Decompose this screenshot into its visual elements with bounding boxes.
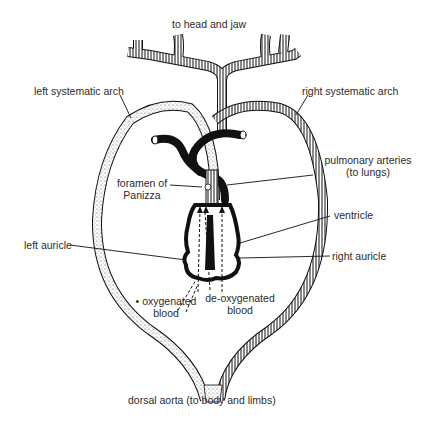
carotid-branches <box>128 35 298 135</box>
foramen-of-panizza <box>205 184 211 190</box>
label-dorsal-aorta: dorsal aorta (to body and limbs) <box>128 394 276 406</box>
label-ventricle: ventricle <box>334 209 373 221</box>
label-deoxy-line1: de-oxygenated <box>200 292 280 304</box>
label-foramen-line1: foramen of <box>112 177 172 189</box>
label-pulmonary-line2: (to lungs) <box>312 166 424 178</box>
label-to-head-and-jaw: to head and jaw <box>172 18 246 30</box>
label-oxygenated-blood: • oxygenated blood <box>128 295 204 319</box>
label-deoxy-line2: blood <box>200 304 280 316</box>
frog-heart-diagram <box>0 0 444 424</box>
label-pulmonary-line1: pulmonary arteries <box>312 154 424 166</box>
label-left-auricle: left auricle <box>24 239 72 251</box>
label-oxy-line1: • oxygenated <box>128 295 204 307</box>
label-foramen-line2: Panizza <box>112 189 172 201</box>
label-left-systematic-arch: left systematic arch <box>34 85 124 97</box>
label-oxy-line2: blood <box>128 307 204 319</box>
label-right-auricle: right auricle <box>332 250 386 262</box>
label-right-systematic-arch: right systematic arch <box>302 85 398 97</box>
label-pulmonary-arteries: pulmonary arteries (to lungs) <box>312 154 424 178</box>
label-foramen-of-panizza: foramen of Panizza <box>112 177 172 201</box>
heart <box>184 205 239 280</box>
label-deoxygenated-blood: de-oxygenated blood <box>200 292 280 316</box>
